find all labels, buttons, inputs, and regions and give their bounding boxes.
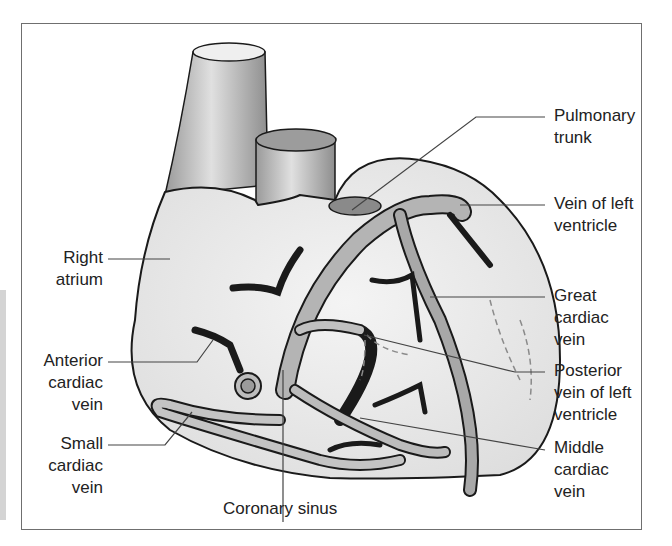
superior-vena-cava	[165, 43, 268, 195]
coronary-sinus-opening	[235, 373, 261, 399]
label-pulmonary-trunk: Pulmonary trunk	[554, 105, 635, 149]
label-posterior-vein-of-left-ventricle: Posterior vein of left ventricle	[554, 360, 632, 426]
label-small-cardiac-vein: Small cardiac vein	[30, 433, 103, 499]
label-anterior-cardiac-vein: Anterior cardiac vein	[26, 350, 103, 416]
pulmonary-trunk-opening	[329, 197, 381, 215]
label-coronary-sinus: Coronary sinus	[223, 498, 337, 520]
aorta	[256, 129, 336, 205]
label-vein-of-left-ventricle: Vein of left ventricle	[554, 193, 633, 237]
label-great-cardiac-vein: Great cardiac vein	[554, 285, 609, 351]
label-right-atrium: Right atrium	[40, 247, 103, 291]
label-middle-cardiac-vein: Middle cardiac vein	[554, 437, 609, 503]
